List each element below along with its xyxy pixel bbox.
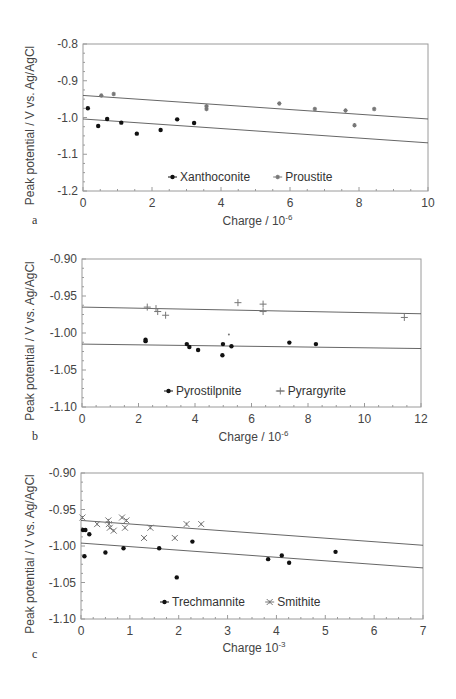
dot-marker-icon [87, 532, 91, 536]
x-tick-label: 4 [192, 412, 199, 426]
legend: PyrostilpnitePyrargyrite [164, 384, 346, 398]
x-star-marker-icon [79, 515, 85, 521]
series-pyrargyrite [144, 299, 408, 321]
x-star-marker-icon [198, 521, 204, 527]
dot-marker-icon [190, 539, 194, 543]
x-tick-label: 4 [218, 196, 225, 210]
fit-line-pyrargyrite [82, 307, 421, 314]
dot-marker-icon [121, 546, 125, 550]
dot-marker-icon [280, 553, 284, 557]
dot-marker-icon [103, 550, 107, 554]
star-marker-icon [277, 101, 281, 105]
fit-line-proustite [83, 95, 428, 119]
plot-frame [82, 259, 421, 407]
y-tick-label: -0.90 [50, 252, 78, 266]
y-tick-label: -0.9 [57, 74, 78, 88]
x-tick-label: 0 [79, 412, 86, 426]
dot-marker-icon [287, 561, 291, 565]
x-axis-title-exponent: -6 [285, 213, 293, 222]
y-tick-label: -1.05 [49, 576, 77, 590]
y-tick-label: -1.1 [57, 147, 78, 161]
x-tick-label: 2 [149, 196, 156, 210]
x-tick-label: 6 [371, 624, 378, 638]
y-axis-title: Peak potential / V vs. Ag/AgCl [23, 261, 37, 420]
x-tick-label: 12 [414, 412, 428, 426]
dot-marker-icon [96, 124, 100, 128]
x-star-marker-icon [172, 535, 178, 541]
x-tick-label: 10 [358, 412, 372, 426]
y-tick-label: -1.2 [57, 184, 78, 198]
dot-marker-icon [314, 342, 318, 346]
y-tick-label: -1.10 [49, 612, 77, 626]
plus-marker-icon [277, 388, 284, 395]
chart-panel-c: 01234567-0.90-0.95-1.00-1.05-1.10Trechma… [23, 466, 427, 661]
x-tick-label: 2 [175, 624, 182, 638]
dot-marker-icon [287, 340, 291, 344]
star-marker-icon [112, 92, 116, 96]
legend-label-xanthoconite: Xanthoconite [180, 170, 250, 184]
y-tick-label: -1.05 [50, 363, 78, 377]
series-proustite [99, 92, 376, 128]
dot-marker-icon [105, 117, 109, 121]
star-marker-icon [313, 107, 317, 111]
dot-marker-icon [175, 575, 179, 579]
x-tick-label: 8 [305, 412, 312, 426]
plus-marker-icon [401, 314, 408, 321]
dot-marker-icon [187, 345, 191, 349]
x-tick-label: 0 [78, 624, 85, 638]
dot-marker-icon [175, 117, 179, 121]
panel-label: a [32, 213, 38, 227]
y-tick-label: -1.00 [49, 539, 77, 553]
x-tick-label: 5 [322, 624, 329, 638]
y-axis-title: Peak potential / V vs. Ag/AgCl [23, 474, 37, 633]
star-marker-icon [352, 123, 356, 127]
x-tick-label: 0 [80, 196, 87, 210]
plus-marker-icon [234, 299, 241, 306]
x-axis-title-text: Charge 10 [222, 641, 278, 655]
star-marker-icon [204, 107, 208, 111]
x-axis-title-text: Charge / 10 [223, 214, 286, 228]
x-tick-label: 2 [135, 412, 142, 426]
dot-marker-icon [221, 342, 225, 346]
y-tick-label: -0.90 [49, 466, 77, 480]
y-tick-label: -1.00 [50, 326, 78, 340]
dot-marker-icon [166, 389, 170, 393]
dot-marker-icon [86, 106, 90, 110]
fit-line-trechmannite [81, 543, 423, 568]
dot-marker-icon [162, 600, 166, 604]
dot-marker-icon [220, 353, 224, 357]
legend-label-pyrargyrite: Pyrargyrite [288, 384, 346, 398]
plot-frame [81, 473, 423, 619]
dot-marker-icon [229, 344, 233, 348]
star-marker-icon [276, 175, 280, 179]
figure-canvas: 0246810-0.8-0.9-1.0-1.1-1.2XanthoconiteP… [0, 0, 456, 699]
series-trechmannite [81, 528, 338, 580]
x-tick-label: 6 [248, 412, 255, 426]
plus-marker-icon [154, 308, 161, 315]
plus-marker-icon [162, 312, 169, 319]
legend-label-smithite: Smithite [277, 595, 321, 609]
plus-marker-icon [260, 308, 267, 315]
dot-marker-icon [135, 131, 139, 135]
star-marker-icon [343, 108, 347, 112]
x-axis-title-text: Charge / 10 [219, 430, 282, 444]
series-pyrostilpnite [143, 337, 318, 357]
x-star-marker-icon [184, 521, 190, 527]
y-tick-label: -1.0 [57, 111, 78, 125]
dot-marker-icon [143, 339, 147, 343]
x-star-marker-icon [111, 528, 117, 534]
plus-marker-icon [144, 304, 151, 311]
dot-marker-icon [157, 546, 161, 550]
x-axis-title: Charge / 10-6 [223, 213, 293, 228]
y-axis-title: Peak potential / V vs. Ag/AgCl [23, 46, 37, 205]
x-tick-label: 7 [420, 624, 427, 638]
dot-marker-icon [119, 120, 123, 124]
y-tick-label: -1.10 [50, 400, 78, 414]
x-tick-label: 6 [287, 196, 294, 210]
dot-marker-icon [83, 528, 87, 532]
panel-label: b [32, 429, 38, 443]
x-axis-title-exponent: -6 [281, 429, 289, 438]
legend: TrechmanniteSmithite [160, 595, 321, 609]
chart-panel-b: 024681012-0.90-0.95-1.00-1.05-1.10Pyrost… [23, 252, 428, 444]
small-dot-marker-icon [228, 333, 230, 335]
